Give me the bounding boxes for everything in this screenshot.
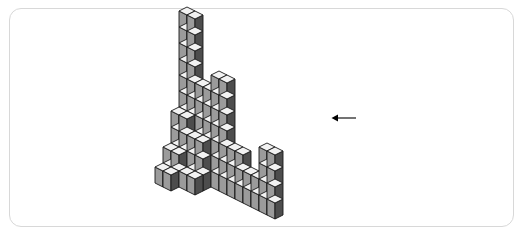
- cube-layer: [155, 7, 283, 219]
- cube: [187, 171, 203, 195]
- cube: [163, 167, 179, 191]
- left-arrow-glyph: [331, 112, 357, 124]
- isometric-cube-stack: [0, 0, 525, 238]
- left-arrow-icon: [331, 110, 357, 122]
- cube: [267, 195, 283, 219]
- screenshot-stage: Stack of unit cubes drawn in isometric p…: [0, 0, 525, 238]
